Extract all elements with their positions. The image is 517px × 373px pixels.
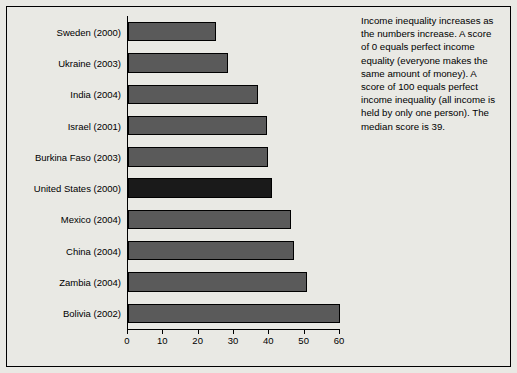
x-tick-label: 0 [124, 335, 129, 346]
x-tick-label: 20 [192, 335, 203, 346]
bar-row: Israel (2001) [128, 116, 340, 135]
x-tick-mark [304, 330, 305, 334]
category-label: Israel (2001) [68, 120, 121, 131]
bar [128, 241, 294, 260]
bar-series: Sweden (2000)Ukraine (2003)India (2004)I… [128, 16, 340, 329]
category-label: Mexico (2004) [61, 214, 121, 225]
bar [128, 116, 267, 135]
bar [128, 85, 258, 104]
category-label: Ukraine (2003) [58, 57, 121, 68]
annotation-paragraph: Income inequality increases as the numbe… [361, 14, 496, 133]
bar-row: Zambia (2004) [128, 272, 340, 291]
chart-figure: Sweden (2000)Ukraine (2003)India (2004)I… [0, 0, 517, 373]
bar [128, 147, 268, 166]
category-label: Burkina Faso (2003) [35, 151, 121, 162]
x-tick-label: 30 [228, 335, 239, 346]
category-label: Zambia (2004) [59, 277, 121, 288]
bar [128, 304, 340, 323]
category-label: Sweden (2000) [57, 26, 121, 37]
bar-row: India (2004) [128, 85, 340, 104]
bar [128, 22, 216, 41]
bar [128, 210, 291, 229]
x-tick-mark [233, 330, 234, 334]
category-label: Bolivia (2002) [63, 308, 121, 319]
bar [128, 53, 228, 72]
bar-row: Ukraine (2003) [128, 53, 340, 72]
x-tick-mark [268, 330, 269, 334]
plot-area: Sweden (2000)Ukraine (2003)India (2004)I… [127, 16, 340, 330]
x-tick-mark [198, 330, 199, 334]
x-tick-mark [127, 330, 128, 334]
bar-row: China (2004) [128, 241, 340, 260]
x-tick-mark [162, 330, 163, 334]
category-label: China (2004) [66, 245, 121, 256]
x-tick-label: 10 [157, 335, 168, 346]
x-tick-label: 50 [298, 335, 309, 346]
bar-row: Sweden (2000) [128, 22, 340, 41]
bar-row: Burkina Faso (2003) [128, 147, 340, 166]
bar [128, 272, 307, 291]
x-tick-label: 40 [263, 335, 274, 346]
x-tick-mark [339, 330, 340, 334]
x-tick-label: 60 [334, 335, 345, 346]
annotation-text-block: Income inequality increases as the numbe… [361, 14, 496, 133]
bar-row: Bolivia (2002) [128, 304, 340, 323]
category-label: India (2004) [70, 89, 121, 100]
category-label: United States (2000) [34, 183, 121, 194]
bar-row: Mexico (2004) [128, 210, 340, 229]
bar [128, 178, 272, 197]
bar-row: United States (2000) [128, 178, 340, 197]
